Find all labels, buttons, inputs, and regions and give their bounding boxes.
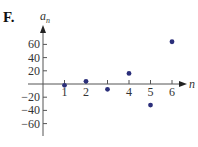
y-tick-label: 20 [28,64,40,78]
data-point [148,103,153,108]
data-point [84,79,89,84]
x-tick-label: 6 [169,85,175,99]
x-tick-label: 4 [126,85,132,99]
x-tick-label: 2 [83,85,89,99]
data-point [170,39,175,44]
data-point [62,83,67,88]
data-point [105,87,110,92]
y-axis-label: an [40,9,50,25]
y-tick-label: 60 [28,37,40,51]
y-tick-label: 40 [28,51,40,65]
x-tick-label: 5 [148,85,154,99]
y-tick-label: −20 [21,90,40,104]
x-axis-label: n [189,77,195,91]
data-point [127,71,132,76]
scatter-chart: ann604020−20−40−6012456 [0,0,198,147]
y-tick-label: −40 [21,103,40,117]
axes: ann604020−20−40−6012456 [21,9,195,136]
x-axis-arrow-icon [179,81,187,87]
y-tick-label: −60 [21,117,40,131]
data-points [62,39,174,107]
y-axis-arrow-icon [40,25,46,33]
